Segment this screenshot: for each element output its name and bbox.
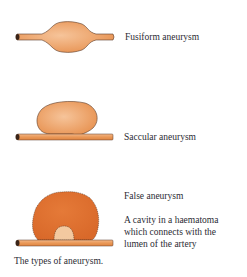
description-line: A cavity in a haematoma [124, 214, 218, 226]
figure-caption: The types of aneurysm. [14, 255, 103, 267]
fusiform-aneurysm-illustration [16, 22, 115, 53]
saccular-aneurysm-illustration [16, 101, 114, 140]
false-aneurysm-label: False aneurysm [124, 190, 183, 202]
description-line: lumen of the artery [124, 238, 218, 250]
false-aneurysm-illustration [16, 192, 114, 246]
false-aneurysm-description: A cavity in a haematoma which connects w… [124, 214, 218, 250]
fusiform-aneurysm-label: Fusiform aneurysm [125, 31, 199, 43]
saccular-aneurysm-label: Saccular aneurysm [124, 131, 196, 143]
description-line: which connects with the [124, 226, 218, 238]
